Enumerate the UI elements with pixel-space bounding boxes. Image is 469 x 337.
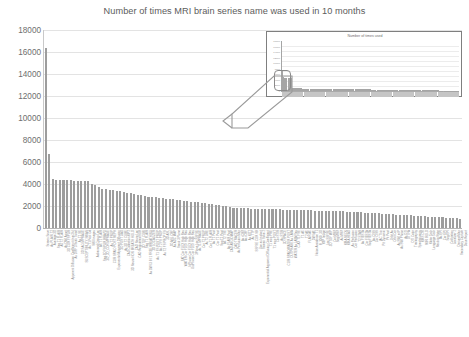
bar — [59, 180, 61, 228]
inset-gridline — [281, 71, 459, 72]
bar — [229, 207, 231, 228]
bar — [346, 212, 348, 229]
bar — [342, 211, 344, 228]
inset-gridline — [281, 56, 459, 57]
bar — [215, 205, 217, 228]
bar — [55, 180, 57, 228]
bar — [247, 208, 249, 228]
bar — [385, 214, 387, 228]
inset-chart-title: Number of times used — [267, 34, 463, 38]
inset-gridline — [281, 86, 459, 87]
bar — [364, 213, 366, 228]
bar — [445, 218, 447, 228]
bar — [140, 195, 142, 228]
inset-gridline — [281, 81, 459, 82]
bar — [109, 190, 111, 228]
bar — [211, 204, 213, 228]
y-axis-tick-labels: 1800016000140001200010000800060004000200… — [0, 0, 41, 337]
bar — [116, 191, 118, 228]
bar — [367, 213, 369, 228]
bar — [268, 209, 270, 228]
bar — [438, 217, 440, 228]
bar — [424, 216, 426, 228]
bar — [123, 192, 125, 228]
bar — [264, 209, 266, 228]
inset-x-axis-ticks — [281, 92, 459, 98]
bar — [371, 213, 373, 228]
inset-gridline — [281, 46, 459, 47]
bar — [314, 211, 316, 228]
bar — [417, 216, 419, 228]
bar — [232, 208, 234, 228]
bar — [300, 210, 302, 228]
bar — [98, 187, 100, 228]
bar — [218, 205, 220, 228]
bar — [420, 216, 422, 228]
y-axis-tick-label: 0 — [3, 224, 41, 233]
bar — [261, 209, 263, 228]
x-axis-tick-label: Dose Report — [465, 230, 468, 246]
bar — [349, 212, 351, 228]
bar — [158, 198, 160, 228]
bar — [374, 213, 376, 228]
y-axis-tick-label: 8000 — [3, 136, 41, 145]
bar — [236, 208, 238, 228]
inset-y-axis-tick-label: 18000 — [268, 40, 280, 43]
bar — [70, 180, 72, 228]
bar — [77, 181, 79, 228]
bar — [91, 184, 93, 228]
bar — [105, 189, 107, 228]
y-axis-tick-label: 6000 — [3, 158, 41, 167]
bar — [52, 179, 54, 228]
bar — [307, 210, 309, 228]
bar — [335, 211, 337, 228]
bar — [325, 211, 327, 228]
bar — [289, 210, 291, 228]
bar — [133, 194, 135, 228]
bar — [222, 206, 224, 228]
bar — [395, 215, 397, 228]
inset-gridline — [281, 51, 459, 52]
bar — [250, 209, 252, 228]
y-axis-tick-label: 12000 — [3, 92, 41, 101]
chart-figure: Number of times MRI brain series name wa… — [0, 0, 469, 337]
x-axis-tick-labels: Screen SaveAx PLAIN T2Average 3DSag T1 F… — [44, 230, 462, 337]
bar — [339, 211, 341, 228]
bar — [286, 210, 288, 228]
bar — [360, 212, 362, 228]
bar — [73, 181, 75, 228]
bar — [45, 48, 47, 228]
bar — [130, 193, 132, 228]
y-axis-tick-label: 18000 — [3, 26, 41, 35]
bar — [165, 199, 167, 228]
y-axis-tick-label: 10000 — [3, 114, 41, 123]
bar — [94, 185, 96, 228]
inset-y-axis-tick-label: 10000 — [268, 62, 280, 65]
bar — [321, 211, 323, 228]
bar — [87, 181, 89, 228]
bar — [303, 210, 305, 228]
chart-title: Number of times MRI brain series name wa… — [0, 6, 469, 16]
bar — [190, 202, 192, 228]
bar — [410, 215, 412, 228]
inset-plot-area — [281, 41, 459, 91]
bar — [183, 201, 185, 228]
bar — [449, 218, 451, 228]
bar — [201, 203, 203, 228]
bar — [48, 154, 50, 228]
bar — [172, 199, 174, 228]
bar — [452, 218, 454, 228]
bar — [378, 213, 380, 228]
bar — [271, 209, 273, 228]
bar — [101, 189, 103, 228]
bar — [332, 211, 334, 228]
bar — [356, 212, 358, 228]
inset-chart: Number of times used 1800016000140001200… — [266, 31, 462, 97]
bar — [155, 197, 157, 228]
bar — [84, 181, 86, 228]
bar — [456, 218, 458, 228]
bar — [441, 217, 443, 228]
bar — [388, 214, 390, 228]
bar — [112, 190, 114, 228]
bar — [208, 204, 210, 228]
